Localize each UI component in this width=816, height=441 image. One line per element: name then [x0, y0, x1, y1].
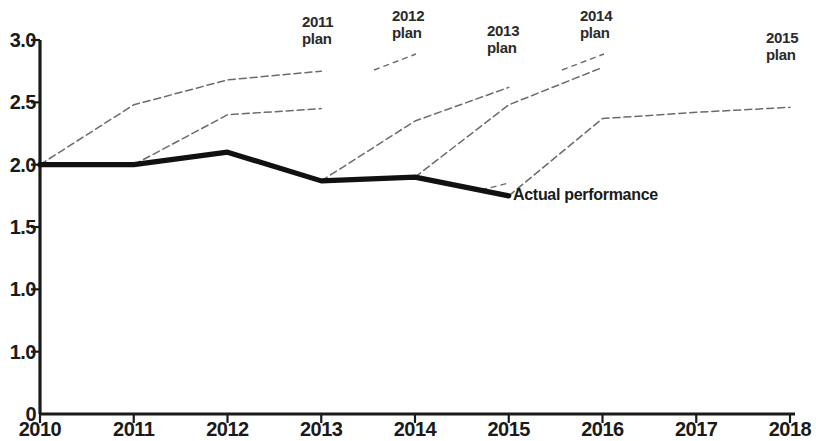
series-line-actual-performance	[40, 152, 509, 196]
series-annotation-actual-performance: Actual performance	[513, 186, 658, 204]
plan-annotation-2013: 2013 plan	[487, 23, 519, 57]
x-axis-tick-label-2010: 2010	[0, 419, 80, 439]
series-line-2013-plan	[321, 87, 509, 180]
plan-annotation-2015: 2015 plan	[766, 30, 798, 64]
y-axis-tick-label-2.5: 2.5	[0, 92, 36, 112]
axis-lines	[40, 40, 795, 414]
plan-annotation-2011: 2011 plan	[302, 14, 333, 48]
y-axis-tick-label-1.5: 1.5	[0, 217, 36, 237]
x-axis-tick-label-2018: 2018	[750, 419, 816, 439]
plan-annotation-2014: 2014 plan	[580, 8, 612, 42]
x-axis-tick-label-2014: 2014	[375, 419, 455, 439]
series-line-2015-plan	[509, 107, 790, 196]
x-axis-tick-label-2015: 2015	[469, 419, 549, 439]
leader-line	[374, 54, 416, 70]
series-line-2014-plan	[415, 67, 603, 177]
x-axis-tick-label-2016: 2016	[563, 419, 643, 439]
annotation-leader-lines	[374, 54, 604, 190]
y-axis-tick-label-0.5: 1.0	[0, 342, 36, 362]
series-line-2012-plan	[134, 109, 322, 165]
y-axis-tick-label-1: 1.0	[0, 279, 36, 299]
series-line-2011-plan	[40, 71, 321, 165]
x-axis-tick-label-2011: 2011	[94, 419, 174, 439]
x-axis-tick-label-2012: 2012	[188, 419, 268, 439]
y-axis-tick-label-3: 3.0	[0, 30, 36, 50]
y-axis-tick-label-2: 2.0	[0, 155, 36, 175]
actual-performance-line-group	[40, 152, 509, 196]
x-axis-tick-label-2013: 2013	[281, 419, 361, 439]
x-axis-tick-label-2017: 2017	[656, 419, 736, 439]
plan-annotation-2012: 2012 plan	[392, 8, 424, 42]
leader-line	[562, 54, 604, 70]
